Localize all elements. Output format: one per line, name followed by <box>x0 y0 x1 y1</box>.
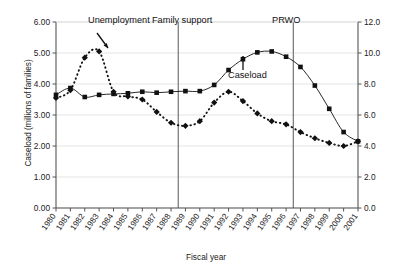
svg-text:1996: 1996 <box>270 212 288 232</box>
svg-text:1993: 1993 <box>227 212 245 232</box>
svg-text:6.0: 6.0 <box>364 110 376 120</box>
svg-text:1983: 1983 <box>83 212 101 232</box>
y-axis-right-ticks: 0.02.04.06.08.010.012.0 <box>358 17 381 213</box>
svg-text:3.00: 3.00 <box>34 110 51 120</box>
x-axis-ticks: 1980198119821983198419851986198719881989… <box>40 208 360 232</box>
svg-text:4.0: 4.0 <box>364 141 376 151</box>
svg-text:1998: 1998 <box>299 212 317 232</box>
svg-text:0.00: 0.00 <box>34 203 51 213</box>
svg-text:1992: 1992 <box>212 212 230 232</box>
svg-text:6.00: 6.00 <box>34 17 51 27</box>
svg-text:2.00: 2.00 <box>34 141 51 151</box>
svg-text:1994: 1994 <box>241 212 259 232</box>
svg-text:1984: 1984 <box>97 212 115 232</box>
svg-text:1987: 1987 <box>140 212 158 232</box>
svg-text:12.0: 12.0 <box>364 17 381 27</box>
svg-text:1980: 1980 <box>40 212 58 232</box>
family-support-event-label: Family support <box>152 15 212 25</box>
svg-text:1988: 1988 <box>155 212 173 232</box>
chart-figure: 0.001.002.003.004.005.006.00 0.02.04.06.… <box>0 0 412 270</box>
svg-text:1999: 1999 <box>313 212 331 232</box>
y-axis-left-ticks: 0.001.002.003.004.005.006.00 <box>34 17 56 213</box>
svg-text:1982: 1982 <box>69 212 87 232</box>
svg-text:5.00: 5.00 <box>34 48 51 58</box>
svg-text:2001: 2001 <box>342 212 360 232</box>
svg-text:0.0: 0.0 <box>364 203 376 213</box>
unemployment-series-label: Unemployment <box>88 15 150 25</box>
prwo-event-label: PRWO <box>272 15 300 25</box>
data-series-markers <box>53 48 361 149</box>
x-axis-title: Fiscal year <box>0 252 412 262</box>
data-series-lines <box>56 49 358 146</box>
gridlines <box>56 22 358 208</box>
svg-text:8.0: 8.0 <box>364 79 376 89</box>
annotation-arrows <box>97 33 245 70</box>
svg-text:1985: 1985 <box>112 212 130 232</box>
svg-text:1.00: 1.00 <box>34 172 51 182</box>
svg-text:2.0: 2.0 <box>364 172 376 182</box>
svg-text:1986: 1986 <box>126 212 144 232</box>
svg-text:1997: 1997 <box>284 212 302 232</box>
chart-canvas: 0.001.002.003.004.005.006.00 0.02.04.06.… <box>0 0 412 270</box>
svg-text:2000: 2000 <box>327 212 345 232</box>
svg-text:1995: 1995 <box>256 212 274 232</box>
svg-text:1990: 1990 <box>184 212 202 232</box>
svg-text:1981: 1981 <box>54 212 72 232</box>
y-axis-left-title: Caseload (millions of families) <box>23 18 33 208</box>
svg-text:1989: 1989 <box>169 212 187 232</box>
svg-text:10.0: 10.0 <box>364 48 381 58</box>
svg-text:1991: 1991 <box>198 212 216 232</box>
caseload-series-label: Caseload <box>228 70 267 80</box>
svg-text:4.00: 4.00 <box>34 79 51 89</box>
